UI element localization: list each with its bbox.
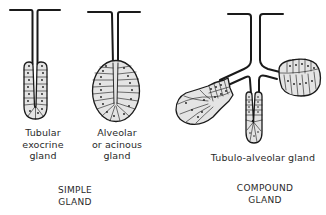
compound-gland-group-label-line-1: COMPOUND: [225, 182, 305, 194]
tubulo-alveolar-gland-label: Tubulo-alveolar gland: [200, 152, 326, 164]
simple-gland-group-label-line-1: SIMPLE: [50, 184, 100, 196]
alveolar-gland-label-line-2: or acinous: [80, 139, 154, 151]
alveolar-gland-label-line-1: Alveolar: [80, 127, 154, 139]
tubular-gland-label-line-2: exocrine: [8, 139, 78, 151]
tubular-gland-label-line-3: gland: [8, 150, 78, 162]
compound-gland-group-label: COMPOUND GLAND: [225, 182, 305, 206]
simple-gland-group-label-line-2: GLAND: [50, 196, 100, 208]
tubular-gland-label-line-1: Tubular: [8, 127, 78, 139]
tubulo-alveolar-gland-label-line-1: Tubulo-alveolar gland: [200, 152, 326, 164]
tubular-gland-drawing: [10, 10, 60, 119]
compound-gland-group-label-line-2: GLAND: [225, 194, 305, 206]
alveolar-gland-drawing: [88, 12, 140, 122]
simple-gland-group-label: SIMPLE GLAND: [50, 184, 100, 208]
tubulo-alveolar-gland-drawing: [176, 14, 321, 143]
alveolar-gland-label-line-3: gland: [80, 150, 154, 162]
alveolar-gland-label: Alveolar or acinous gland: [80, 127, 154, 162]
tubular-gland-label: Tubular exocrine gland: [8, 127, 78, 162]
